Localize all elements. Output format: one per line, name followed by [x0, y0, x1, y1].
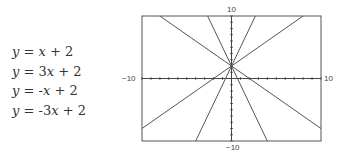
ymax-label: 10 — [227, 5, 236, 14]
xmin-label: −10 — [122, 74, 136, 83]
ymin-label: −10 — [226, 143, 240, 152]
graph-window — [0, 0, 344, 159]
xmax-label: 10 — [324, 74, 333, 83]
